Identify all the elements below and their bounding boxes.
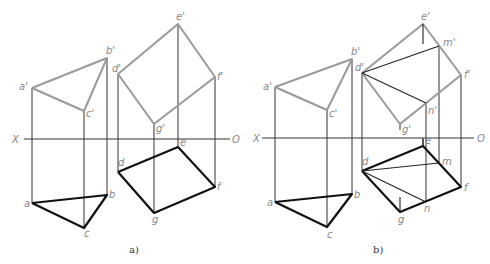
auxiliary-line — [362, 73, 426, 103]
orthographic-projection-diagram: XOa'b'c'd'e'f'g'abcdefga) XOa'b'c'd'e'm'… — [0, 0, 490, 264]
top-view-outline — [32, 195, 107, 228]
front-view-outline — [275, 59, 352, 110]
point-label: n' — [428, 105, 437, 116]
point-label: b — [109, 189, 115, 200]
point-label: m' — [443, 37, 456, 48]
top-view-outline — [275, 194, 352, 227]
point-label: n — [424, 203, 430, 214]
point-label: g' — [402, 124, 411, 135]
panel-b: XOa'b'c'd'e'm'f'n'g'abcdemfngb) — [252, 11, 485, 255]
point-label: e — [425, 135, 431, 146]
point-label: d' — [112, 63, 121, 74]
point-label: c — [327, 229, 333, 240]
axis-label-o: O — [232, 134, 240, 145]
auxiliary-line — [362, 171, 426, 202]
front-view-outline — [118, 24, 215, 124]
point-label: b — [354, 189, 360, 200]
panel-caption: b) — [373, 244, 383, 255]
panel-caption: a) — [129, 244, 139, 255]
point-label: g — [398, 214, 404, 225]
point-label: e' — [421, 11, 430, 22]
point-label: c' — [329, 108, 337, 119]
point-label: g' — [156, 123, 165, 134]
axis-label-x: X — [252, 133, 261, 144]
point-label: d' — [355, 62, 364, 73]
front-view-outline — [32, 58, 107, 111]
point-label: f — [464, 182, 469, 193]
top-view-outline — [118, 147, 215, 213]
point-label: f' — [217, 71, 223, 82]
auxiliary-line — [362, 46, 439, 73]
point-label: g — [152, 214, 158, 225]
point-label: a' — [19, 81, 28, 92]
point-label: c — [84, 228, 90, 239]
point-label: a — [24, 198, 30, 209]
point-label: c' — [86, 108, 94, 119]
point-label: f — [217, 181, 222, 192]
point-label: d — [118, 157, 125, 168]
axis-label-o: O — [477, 133, 485, 144]
point-label: b' — [351, 46, 360, 57]
point-label: e' — [176, 11, 185, 22]
point-label: a' — [263, 81, 272, 92]
point-label: d — [362, 156, 369, 167]
point-label: f' — [464, 69, 470, 80]
point-label: e — [180, 137, 186, 148]
axis-label-x: X — [11, 134, 20, 145]
point-label: a — [267, 197, 273, 208]
point-label: m — [442, 156, 452, 167]
panel-a: XOa'b'c'd'e'f'g'abcdefga) — [11, 11, 240, 255]
point-label: b' — [106, 45, 115, 56]
